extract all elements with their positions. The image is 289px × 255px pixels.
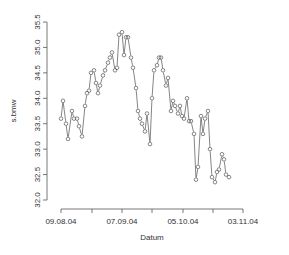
data-point — [96, 91, 100, 95]
data-point — [182, 117, 186, 121]
data-point — [59, 117, 63, 121]
data-point — [101, 74, 105, 78]
x-axis-title: Datum — [140, 233, 164, 242]
data-point — [152, 69, 156, 73]
data-point — [176, 112, 180, 116]
data-point — [145, 112, 149, 116]
data-point — [64, 122, 68, 126]
data-point — [199, 114, 203, 118]
data-point — [115, 66, 119, 70]
data-point — [224, 173, 228, 177]
x-tick-label: 05.10.04 — [167, 217, 199, 226]
y-tick-label: 35.0 — [33, 39, 42, 55]
data-point — [150, 96, 154, 100]
x-tick-label: 07.09.04 — [106, 217, 138, 226]
data-point — [148, 142, 152, 146]
data-point — [120, 30, 124, 34]
y-tick-label: 33.0 — [33, 141, 42, 157]
data-point — [108, 56, 112, 60]
data-point — [117, 33, 121, 37]
data-point — [106, 61, 110, 65]
data-point — [166, 76, 170, 80]
data-point — [61, 99, 65, 103]
data-point — [94, 81, 98, 85]
data-point — [140, 122, 144, 126]
data-point — [169, 109, 173, 113]
data-point — [192, 132, 196, 136]
y-tick-label: 32.0 — [33, 192, 42, 208]
data-point — [213, 180, 217, 184]
data-point — [227, 175, 231, 179]
data-point — [206, 109, 210, 113]
data-point — [210, 175, 214, 179]
data-point — [185, 96, 189, 100]
data-point — [201, 132, 205, 136]
data-point — [98, 84, 102, 88]
x-axis: 09.08.0407.09.0405.10.0403.11.04 — [45, 209, 258, 226]
data-point — [80, 135, 84, 139]
x-tick-label: 09.08.04 — [45, 217, 77, 226]
data-point — [129, 56, 133, 60]
data-point — [164, 84, 168, 88]
data-point — [110, 51, 114, 55]
data-point — [103, 69, 107, 73]
data-point — [173, 104, 177, 108]
y-axis: 32.032.533.033.534.034.535.035.5 — [33, 14, 47, 208]
data-point — [194, 178, 198, 182]
data-point — [155, 63, 159, 67]
data-point — [161, 69, 165, 73]
data-point — [122, 53, 126, 57]
data-point — [83, 104, 87, 108]
y-tick-label: 33.5 — [33, 115, 42, 131]
data-series — [59, 30, 231, 184]
data-point — [92, 69, 96, 73]
data-point — [222, 158, 226, 162]
x-tick-label: 03.11.04 — [228, 217, 259, 226]
data-point — [131, 66, 135, 70]
y-tick-label: 32.5 — [33, 166, 42, 182]
data-point — [66, 137, 70, 141]
data-point — [134, 86, 138, 90]
data-point — [220, 152, 224, 156]
data-point — [196, 165, 200, 169]
data-point — [138, 117, 142, 121]
line-chart: 32.032.533.033.534.034.535.035.5 09.08.0… — [0, 0, 289, 255]
data-point — [89, 71, 93, 75]
y-tick-label: 35.5 — [33, 14, 42, 30]
data-point — [171, 99, 175, 103]
y-tick-label: 34.0 — [33, 90, 42, 106]
data-point — [143, 130, 147, 134]
y-tick-label: 34.5 — [33, 65, 42, 81]
data-point — [70, 109, 74, 113]
data-point — [203, 117, 207, 121]
data-point — [77, 124, 81, 128]
y-axis-title: s.bmw — [9, 99, 18, 122]
data-point — [217, 168, 221, 172]
data-point — [87, 89, 91, 93]
data-point — [208, 147, 212, 151]
data-point — [136, 109, 140, 113]
data-point — [178, 104, 182, 108]
